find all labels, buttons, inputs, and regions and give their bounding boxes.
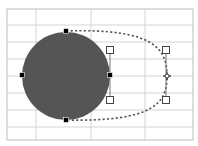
anchor-bottom-handle[interactable] (64, 118, 69, 123)
drawing-canvas[interactable] (0, 0, 198, 146)
control-handles (107, 47, 170, 104)
circle-shape[interactable] (22, 32, 110, 120)
control-inner-top-handle[interactable] (107, 47, 114, 54)
control-outer-bottom-handle[interactable] (163, 97, 170, 104)
control-outer-top-handle[interactable] (163, 47, 170, 54)
anchor-top-handle[interactable] (64, 29, 69, 34)
move-cursor-center (165, 74, 169, 78)
anchor-right-handle[interactable] (108, 73, 113, 78)
anchor-left-handle[interactable] (20, 73, 25, 78)
control-inner-bottom-handle[interactable] (107, 97, 114, 104)
move-cursor-icon[interactable] (163, 72, 171, 80)
